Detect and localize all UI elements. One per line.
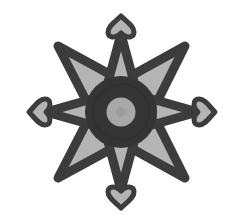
heart-east-icon [194, 99, 215, 125]
center-disc-core [116, 107, 126, 117]
heart-south-icon [108, 187, 134, 208]
center-hub [85, 76, 157, 148]
heart-north-icon [108, 16, 134, 37]
heart-west-icon [29, 99, 50, 125]
compass-star-icon [0, 0, 236, 224]
compass-star-illustration: eight-pointed star compass rose with hea… [0, 0, 236, 224]
